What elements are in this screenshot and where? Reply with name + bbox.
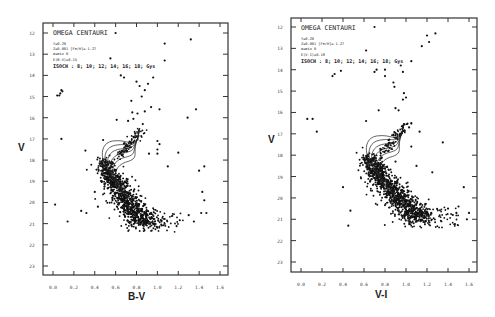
outlier-star	[148, 153, 150, 155]
isochrone-16gyr	[377, 123, 404, 193]
y-tick-label: 23	[29, 264, 35, 269]
outlier-star	[398, 109, 400, 111]
outlier-star	[442, 141, 444, 143]
y-tick-label: 19	[29, 179, 35, 184]
outlier-star	[136, 112, 138, 114]
y-tick-label: 15	[29, 95, 35, 100]
outlier-star	[84, 150, 86, 152]
y-tick-label: 14	[29, 73, 35, 78]
x-tick-label: 1.0	[153, 285, 161, 290]
chart-annotation: α=mix 0	[301, 47, 316, 51]
chart-annotation: ISOCH : 8; 10; 12; 14; 16; 18; Gys	[301, 58, 403, 65]
x-tick-label: 1.6	[465, 282, 473, 287]
chart-annotation: α=mix 0	[53, 52, 68, 56]
y-tick-label: 13	[277, 46, 283, 51]
x-tick-label: 1.0	[402, 282, 410, 287]
x-tick-label: 0.8	[381, 282, 389, 287]
isochrones	[366, 123, 404, 197]
outlier-star	[373, 71, 375, 73]
y-axis-label-right: V	[268, 134, 275, 145]
chart-annotation: ISOCH : 8; 10; 12; 14; 16; 18; Gys	[53, 63, 155, 70]
outlier-star	[193, 220, 195, 222]
outlier-star	[365, 49, 367, 51]
chart-annotation: Y=0.20	[53, 42, 66, 46]
y-tick-label: 19	[277, 175, 283, 180]
outlier-star	[152, 76, 154, 78]
outlier-star	[410, 146, 412, 148]
outlier-star	[167, 165, 169, 167]
outlier-star	[408, 126, 410, 128]
outlier-star	[200, 212, 202, 214]
outlier-star	[158, 108, 160, 110]
outlier-star	[80, 210, 82, 212]
outlier-star	[373, 26, 375, 28]
y-tick-label: 16	[277, 110, 283, 115]
y-tick-label: 13	[29, 52, 35, 57]
outlier-star	[67, 220, 69, 222]
outlier-star	[403, 92, 405, 94]
outlier-star	[130, 100, 132, 102]
outlier-star	[349, 210, 351, 212]
outlier-star	[455, 212, 457, 214]
outlier-star	[421, 45, 423, 47]
isochrone-12gyr	[372, 123, 404, 185]
outlier-star	[135, 81, 137, 83]
outlier-star	[120, 74, 122, 76]
outlier-star	[201, 191, 203, 193]
outlier-star	[384, 75, 386, 77]
y-tick-label: 18	[277, 153, 283, 158]
outlier-star	[156, 140, 158, 142]
y-tick-label: 22	[277, 239, 283, 244]
y-tick-label: 12	[277, 25, 283, 30]
outlier-star	[392, 141, 394, 143]
outlier-star	[405, 96, 407, 98]
outlier-star	[394, 107, 396, 109]
y-tick-label: 17	[277, 132, 283, 137]
outlier-star	[59, 92, 61, 94]
outlier-star	[141, 95, 143, 97]
chart-annotation: Z=0.001 [Fe/H]=-1.27	[53, 47, 96, 51]
outlier-star	[60, 138, 62, 140]
cmd-panel-left: 0.00.20.40.60.81.01.21.41.61213141516171…	[0, 0, 250, 317]
outlier-star	[203, 199, 205, 201]
isochrone-18gyr	[379, 123, 403, 197]
outlier-star	[54, 204, 56, 206]
outlier-star	[188, 214, 190, 216]
outlier-star	[195, 108, 197, 110]
outlier-star	[457, 205, 459, 207]
y-tick-label: 23	[277, 260, 283, 265]
outlier-star	[394, 161, 396, 163]
outlier-star	[131, 111, 133, 113]
y-tick-label: 12	[29, 31, 35, 36]
x-tick-label: 0.6	[112, 285, 120, 290]
x-tick-label: 0.2	[318, 282, 326, 287]
outlier-star	[156, 153, 158, 155]
cmd-plot-left: 0.00.20.40.60.81.01.21.41.61213141516171…	[0, 0, 250, 317]
outlier-star	[468, 212, 470, 214]
outlier-star	[342, 186, 344, 188]
plot-area: 0.00.20.40.60.81.01.21.41.61213141516171…	[29, 23, 228, 290]
outlier-star	[419, 131, 421, 133]
star-points	[306, 26, 470, 229]
x-tick-label: 0.4	[91, 285, 99, 290]
y-tick-label: 14	[277, 68, 283, 73]
outlier-star	[393, 86, 395, 88]
outlier-star	[116, 119, 118, 121]
x-tick-label: 0.8	[132, 285, 140, 290]
outlier-star	[392, 81, 394, 83]
outlier-star	[115, 32, 117, 34]
x-tick-label: 0.2	[70, 285, 78, 290]
outlier-star	[156, 148, 158, 150]
outlier-star	[102, 139, 104, 141]
x-tick-label: 0.4	[339, 282, 347, 287]
outlier-star	[142, 123, 144, 125]
outlier-star	[376, 69, 378, 71]
outlier-star	[384, 69, 386, 71]
x-tick-label: 0.0	[297, 282, 305, 287]
outlier-star	[150, 106, 152, 108]
isochrone-10gyr	[369, 123, 404, 181]
outlier-star	[426, 34, 428, 36]
outlier-star	[306, 118, 308, 120]
outlier-star	[177, 152, 179, 154]
outlier-star	[402, 99, 404, 101]
